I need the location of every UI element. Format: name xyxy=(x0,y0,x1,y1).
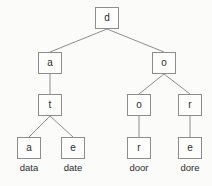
tree-node-label: t xyxy=(49,100,52,110)
tree-node-label: r xyxy=(137,143,140,153)
tree-node[interactable]: a xyxy=(38,52,62,74)
tree-node[interactable]: r xyxy=(178,94,202,116)
tree-node-label: a xyxy=(26,143,32,153)
tree-edge xyxy=(139,74,164,94)
tree-edge xyxy=(50,29,107,52)
tree-node[interactable]: o xyxy=(152,52,176,74)
leaf-word-text: door xyxy=(129,162,148,173)
tree-node-label: e xyxy=(187,143,193,153)
tree-node[interactable]: e xyxy=(61,137,85,159)
tree-node-label: o xyxy=(136,100,142,110)
trie-diagram: d a o t o r a e r e data date door dore xyxy=(0,0,212,186)
tree-node[interactable]: t xyxy=(38,94,62,116)
leaf-word-text: date xyxy=(64,162,83,173)
tree-node[interactable]: r xyxy=(127,137,151,159)
leaf-word-label: door xyxy=(116,163,162,173)
tree-edge xyxy=(107,29,164,52)
tree-edge xyxy=(164,74,190,94)
tree-edge xyxy=(29,116,50,137)
leaf-word-text: dore xyxy=(180,162,199,173)
leaf-word-label: data xyxy=(6,163,52,173)
leaf-word-text: data xyxy=(20,162,39,173)
tree-node[interactable]: a xyxy=(17,137,41,159)
tree-node[interactable]: d xyxy=(95,7,119,29)
tree-node[interactable]: o xyxy=(127,94,151,116)
leaf-word-label: date xyxy=(50,163,96,173)
tree-node-label: e xyxy=(70,143,76,153)
tree-node-label: o xyxy=(161,58,167,68)
tree-node-label: r xyxy=(188,100,191,110)
leaf-word-label: dore xyxy=(167,163,212,173)
tree-node[interactable]: e xyxy=(178,137,202,159)
tree-edge xyxy=(50,116,73,137)
tree-node-label: a xyxy=(47,58,53,68)
tree-node-label: d xyxy=(104,13,110,23)
